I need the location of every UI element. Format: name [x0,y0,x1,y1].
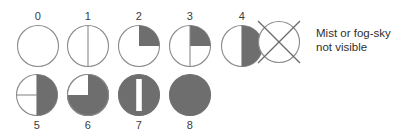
cloud-cover-legend: 0 1 2 3 4 [0,0,410,138]
symbol-cell-okta-5: 5 [10,72,64,131]
symbol-label-okta-6: 6 [61,119,115,131]
symbol-label-okta-8: 8 [163,119,217,131]
symbol-cell-okta-7: 7 [112,72,166,131]
symbol-cell-okta-8: 8 [163,72,217,131]
okta-1-circle-vertical-line [61,23,115,69]
symbol-label-okta-5: 5 [10,119,64,131]
symbol-cell-okta-3: 3 [163,10,217,69]
note-line-1: Mist or fog-sky [316,26,391,40]
okta-3-quarter-filled-with-line [163,23,217,69]
symbol-cell-okta-0: 0 [11,10,65,69]
obscured-sky-note: Mist or fog-sky not visible [316,26,391,54]
symbol-label-okta-7: 7 [112,119,166,131]
okta-5-half-filled-with-line [10,72,64,118]
okta-7-filled-with-white-bar [112,72,166,118]
symbol-cell-okta-2: 2 [112,10,166,69]
symbol-cell-okta-1: 1 [61,10,115,69]
symbol-label-okta-2: 2 [112,10,166,22]
okta-6-three-quarters-filled [61,72,115,118]
symbol-label-okta-0: 0 [11,10,65,22]
okta-2-quarter-filled [112,23,166,69]
crossed-circle-obscured-sky [248,13,310,71]
note-line-2: not visible [316,40,391,54]
symbol-cell-okta-6: 6 [61,72,115,131]
symbol-label-okta-3: 3 [163,10,217,22]
symbol-cell-obscured-sky [248,13,310,71]
okta-0-clear-circle [11,23,65,69]
symbol-label-okta-1: 1 [61,10,115,22]
okta-8-fully-filled [163,72,217,118]
